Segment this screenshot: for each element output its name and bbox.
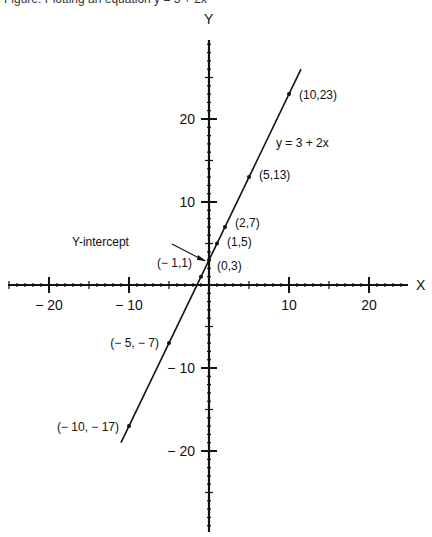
y-intercept-label: Y-intercept <box>72 235 130 249</box>
data-point <box>167 341 171 345</box>
data-point <box>223 225 227 229</box>
data-point <box>199 275 203 279</box>
point-label: (− 5, − 7) <box>110 336 159 350</box>
x-tick-label: 10 <box>281 297 297 313</box>
point-label: (5,13) <box>259 168 290 182</box>
coordinate-plot: XY − 20− 101020− 20− 101020 (− 10, − 17)… <box>0 0 432 537</box>
data-point <box>207 258 211 262</box>
y-tick-label: 10 <box>179 194 195 210</box>
x-tick-label: − 20 <box>35 297 63 313</box>
point-label: (1,5) <box>227 235 252 249</box>
x-tick-label: 20 <box>361 297 377 313</box>
y-axis-label: Y <box>204 11 214 27</box>
y-tick-label: − 10 <box>167 360 195 376</box>
point-label: (0,3) <box>217 259 242 273</box>
line-y-3-plus-2x <box>121 69 301 443</box>
data-point <box>215 242 219 246</box>
data-point <box>287 92 291 96</box>
data-point <box>127 424 131 428</box>
y-tick-label: − 20 <box>167 443 195 459</box>
point-label: (− 10, − 17) <box>57 420 119 434</box>
data-point <box>247 175 251 179</box>
y-tick-label: 20 <box>179 111 195 127</box>
point-label: (2,7) <box>235 216 260 230</box>
equation-line <box>121 69 301 443</box>
point-label: (− 1,1) <box>157 256 192 270</box>
x-axis-label: X <box>416 277 426 293</box>
arrow-head-icon <box>197 255 206 261</box>
annotations: Y-intercepty = 3 + 2x <box>72 136 329 261</box>
point-label: (10,23) <box>299 88 337 102</box>
x-tick-label: − 10 <box>115 297 143 313</box>
equation-label: y = 3 + 2x <box>276 136 329 150</box>
